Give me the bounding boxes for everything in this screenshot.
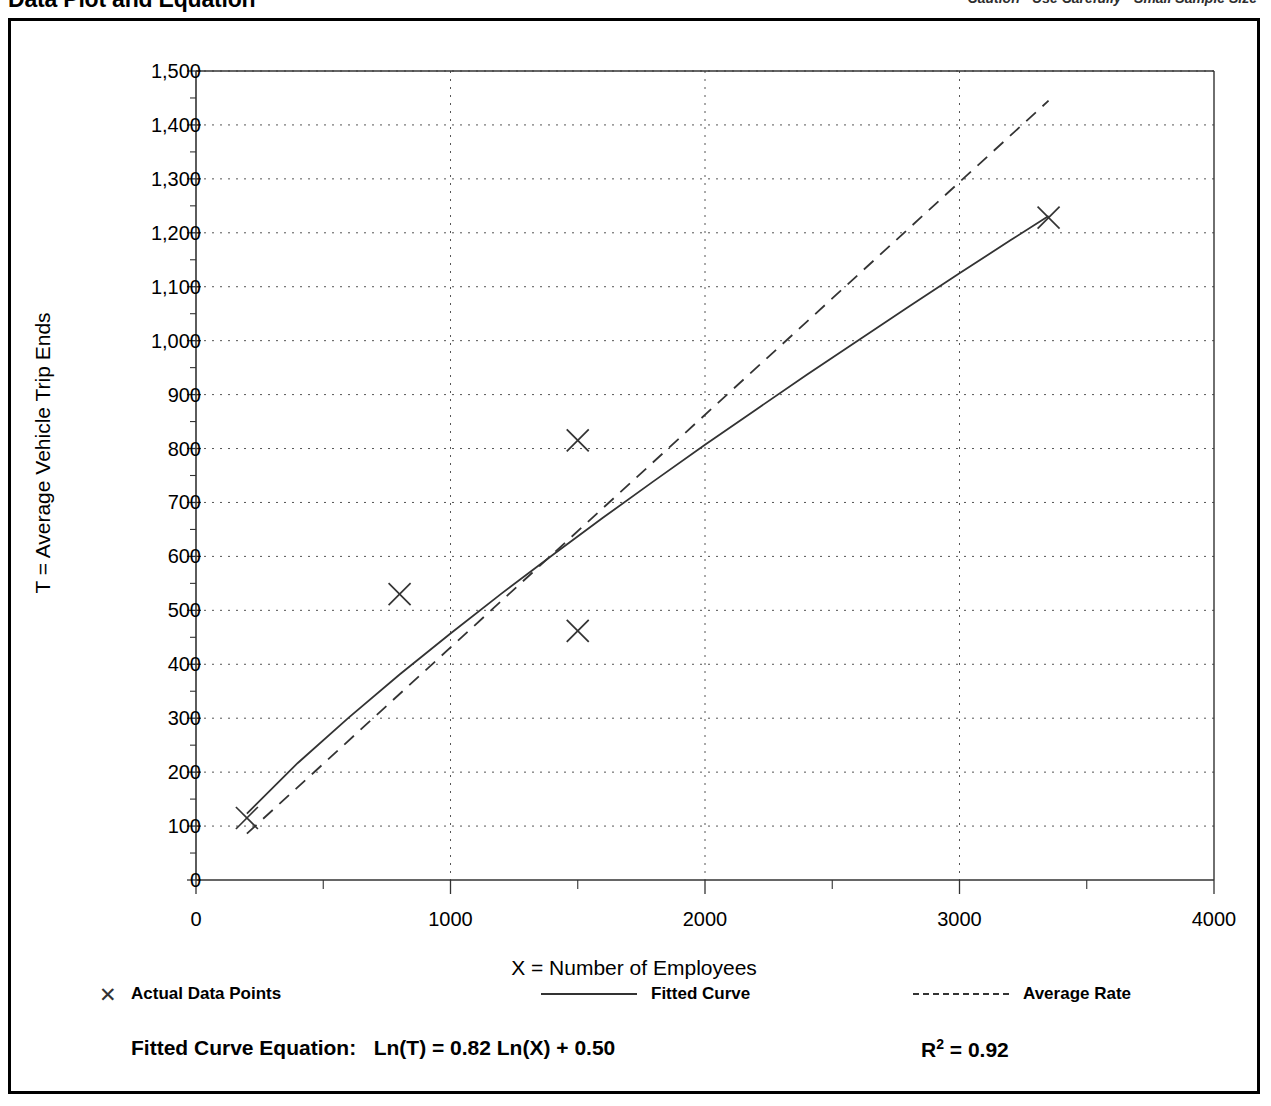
chart-legend: ✕ Actual Data Points Fitted Curve Averag… — [11, 984, 1257, 1018]
legend-item-average-rate: Average Rate — [913, 984, 1131, 1004]
equation-label: Fitted Curve Equation: — [131, 1036, 356, 1059]
equation-row: Fitted Curve Equation: Ln(T) = 0.82 Ln(X… — [11, 1036, 1257, 1076]
r-squared-label: R — [921, 1038, 936, 1061]
plot-area: T = Average Vehicle Trip Ends 0100200300… — [11, 21, 1257, 1091]
r-squared-number: = 0.92 — [950, 1038, 1009, 1061]
x-marker-icon: ✕ — [99, 986, 117, 1003]
page-header: Data Plot and Equation Caution - Use Car… — [0, 0, 1271, 18]
header-caution-note: Caution - Use Carefully - Small Sample S… — [968, 0, 1257, 6]
solid-line-icon — [541, 993, 637, 995]
r-squared-value: R2 = 0.92 — [921, 1036, 1009, 1062]
page-title: Data Plot and Equation — [8, 0, 255, 13]
fitted-curve-equation: Fitted Curve Equation: Ln(T) = 0.82 Ln(X… — [131, 1036, 615, 1060]
x-tick-label: 4000 — [1169, 908, 1259, 931]
chart-card: T = Average Vehicle Trip Ends 0100200300… — [8, 18, 1260, 1094]
legend-item-fitted-curve: Fitted Curve — [541, 984, 750, 1004]
legend-label: Actual Data Points — [131, 984, 281, 1004]
x-tick-label: 2000 — [660, 908, 750, 931]
x-tick-labels: 01000200030004000 — [11, 21, 1257, 951]
equation-formula: Ln(T) = 0.82 Ln(X) + 0.50 — [374, 1036, 616, 1059]
x-tick-label: 1000 — [406, 908, 496, 931]
x-tick-label: 3000 — [915, 908, 1005, 931]
r-squared-exponent: 2 — [936, 1036, 944, 1052]
x-axis-title: X = Number of Employees — [11, 956, 1257, 980]
x-tick-label: 0 — [151, 908, 241, 931]
legend-label: Average Rate — [1023, 984, 1131, 1004]
legend-item-actual-data-points: ✕ Actual Data Points — [99, 984, 281, 1004]
legend-label: Fitted Curve — [651, 984, 750, 1004]
dashed-line-icon — [913, 993, 1009, 995]
